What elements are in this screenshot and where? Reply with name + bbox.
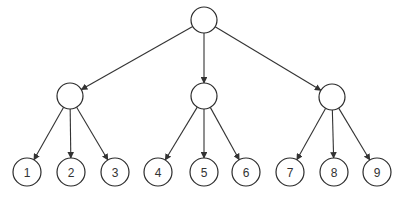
node-n6: 6 bbox=[232, 158, 260, 186]
node-circle bbox=[191, 7, 217, 33]
node-label: 2 bbox=[68, 166, 75, 180]
edge-c-to-n7 bbox=[297, 108, 326, 159]
node-label: 9 bbox=[374, 166, 381, 180]
node-label: 4 bbox=[155, 166, 162, 180]
node-label: 3 bbox=[112, 166, 119, 180]
node-label: 8 bbox=[331, 166, 338, 180]
node-n8: 8 bbox=[320, 158, 348, 186]
nodes-group: 123456789 bbox=[13, 7, 391, 186]
node-n2: 2 bbox=[57, 158, 85, 186]
edge-c-to-n8 bbox=[332, 110, 333, 158]
node-n7: 7 bbox=[276, 158, 304, 186]
edge-b-to-n4 bbox=[165, 107, 197, 160]
node-n9: 9 bbox=[363, 158, 391, 186]
node-c bbox=[319, 84, 345, 110]
node-label: 1 bbox=[24, 166, 31, 180]
node-label: 5 bbox=[201, 166, 208, 180]
edge-a-to-n1 bbox=[34, 107, 64, 160]
tree-diagram: 123456789 bbox=[0, 0, 404, 198]
edge-a-to-n2 bbox=[70, 109, 71, 158]
node-n5: 5 bbox=[190, 158, 218, 186]
node-circle bbox=[191, 83, 217, 109]
node-circle bbox=[57, 83, 83, 109]
node-label: 6 bbox=[243, 166, 250, 180]
node-n3: 3 bbox=[101, 158, 129, 186]
edge-c-to-n9 bbox=[339, 108, 370, 160]
edge-a-to-n3 bbox=[77, 107, 108, 160]
node-n4: 4 bbox=[144, 158, 172, 186]
edge-b-to-n6 bbox=[210, 107, 239, 159]
node-circle bbox=[319, 84, 345, 110]
node-n1: 1 bbox=[13, 158, 41, 186]
node-a bbox=[57, 83, 83, 109]
node-b bbox=[191, 83, 217, 109]
node-root bbox=[191, 7, 217, 33]
edge-root-to-a bbox=[81, 26, 192, 89]
node-label: 7 bbox=[287, 166, 294, 180]
edge-root-to-c bbox=[215, 27, 321, 91]
